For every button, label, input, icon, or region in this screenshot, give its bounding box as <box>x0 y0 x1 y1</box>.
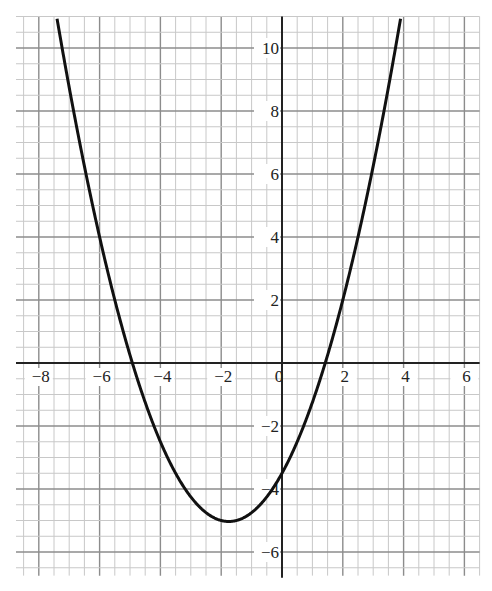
grid <box>16 17 480 576</box>
x-tick-label: −2 <box>214 367 232 386</box>
y-tick-label: 10 <box>262 39 279 58</box>
x-tick-label: 2 <box>341 367 350 386</box>
x-tick-label: −6 <box>93 367 111 386</box>
x-tick-label: −8 <box>32 367 50 386</box>
x-tick-label: −4 <box>153 367 172 386</box>
x-tick-label: 4 <box>401 367 410 386</box>
y-tick-label: −6 <box>261 543 279 562</box>
x-tick-label: 0 <box>275 367 284 386</box>
parabola-chart: −8−6−4−20246 108642−2−4−6 <box>0 0 492 591</box>
axes <box>16 17 480 578</box>
y-tick-label: 2 <box>271 291 280 310</box>
y-tick-label: 6 <box>271 165 280 184</box>
y-tick-label: 4 <box>271 228 280 247</box>
y-tick-label: 8 <box>271 102 280 121</box>
x-tick-label: 6 <box>462 367 471 386</box>
y-tick-label: −2 <box>261 417 279 436</box>
parabola-curve <box>57 19 401 522</box>
